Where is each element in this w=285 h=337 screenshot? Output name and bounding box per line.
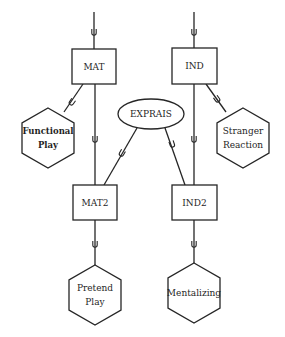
nodes-layer: MATINDMAT2IND2EXPRAISFunctionalPlayStran… [22, 48, 269, 325]
node-label: IND2 [182, 198, 206, 208]
node-mat: MAT [72, 49, 116, 84]
node-ind: IND [172, 48, 217, 84]
indicator-mentalizing: Mentalizing [167, 263, 221, 323]
edge-EXP-IND2 [165, 128, 185, 185]
edge-EXP-MAT2 [104, 128, 137, 185]
indicator-pretend-play: PretendPlay [69, 265, 121, 325]
diagram-svg: MATINDMAT2IND2EXPRAISFunctionalPlayStran… [0, 0, 285, 337]
indicator-stranger-reaction: StrangerReaction [217, 108, 269, 168]
indicator-label: Functional [22, 126, 74, 136]
node-mat2: MAT2 [73, 185, 117, 220]
node-exprais: EXPRAIS [118, 99, 184, 129]
edge-top-in-MAT [92, 12, 96, 49]
edge-IND-SR [206, 84, 226, 112]
node-label: EXPRAIS [130, 109, 172, 119]
indicator-label: Mentalizing [167, 288, 221, 298]
indicator-label: Play [85, 297, 105, 307]
indicator-label: Stranger [223, 126, 264, 136]
node-ind2: IND2 [172, 185, 217, 220]
path-diagram: MATINDMAT2IND2EXPRAISFunctionalPlayStran… [0, 0, 285, 337]
indicator-label: Reaction [223, 140, 263, 150]
edge-MAT-MAT2 [93, 84, 97, 185]
node-label: IND [185, 61, 204, 71]
edge-IND2-MENT [192, 220, 196, 263]
node-label: MAT2 [82, 198, 109, 208]
indicator-label: Pretend [77, 283, 113, 293]
edge-MAT-FP [64, 84, 83, 112]
edge-IND-IND2 [192, 84, 196, 185]
indicator-functional-play: FunctionalPlay [22, 108, 74, 168]
indicator-label: Play [38, 140, 59, 150]
edge-MAT2-PP [93, 220, 97, 265]
edge-top-in-IND [192, 12, 196, 48]
node-label: MAT [83, 62, 104, 72]
